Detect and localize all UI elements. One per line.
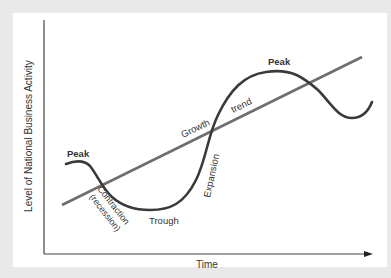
peak-right-label: Peak bbox=[268, 56, 291, 67]
business-cycle-curve bbox=[66, 71, 372, 210]
y-axis-label: Level of National Business Activity bbox=[23, 60, 34, 212]
x-axis-label: Time bbox=[196, 259, 218, 270]
trough-label: Trough bbox=[149, 215, 179, 226]
peak-left-label: Peak bbox=[67, 148, 90, 159]
x-axis-arrow-icon bbox=[364, 251, 373, 257]
growth-label: Growth bbox=[179, 116, 211, 139]
business-cycle-diagram: Level of National Business Activity Time… bbox=[0, 0, 391, 278]
